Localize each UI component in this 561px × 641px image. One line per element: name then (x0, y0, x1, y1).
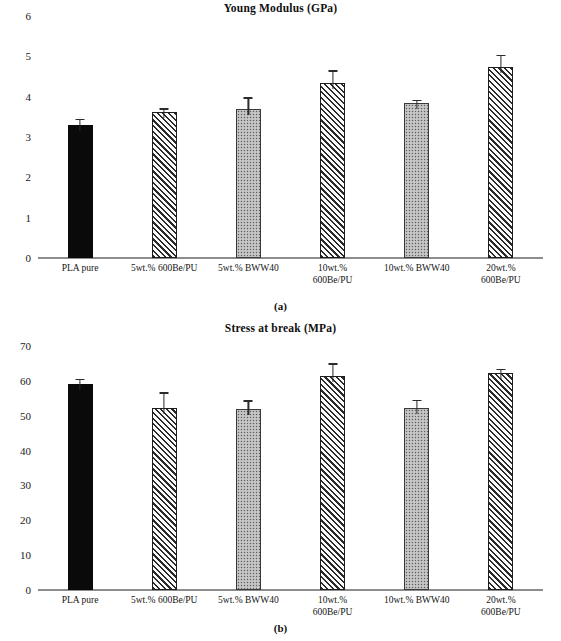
x-axis-category-label: 20wt.%600Be/PU (459, 263, 543, 286)
bar[interactable] (152, 112, 177, 258)
x-axis-category-label: 20wt.%600Be/PU (459, 595, 543, 618)
y-axis-tick-label: 30 (5, 480, 31, 490)
y-axis-tick-label: 2 (5, 172, 31, 182)
bar[interactable] (488, 373, 513, 590)
bar[interactable] (404, 408, 429, 590)
error-bar-line (164, 108, 165, 118)
chart-title-b: Stress at break (MPa) (0, 322, 561, 334)
panel-b: Stress at break (MPa) 010203040506070PLA… (0, 320, 561, 641)
error-bar-cap (412, 400, 421, 401)
bar-group[interactable] (68, 16, 93, 258)
bar-group[interactable] (68, 346, 93, 590)
x-axis-line (38, 589, 543, 591)
x-axis-category-label: 10wt.% BWW40 (375, 263, 459, 275)
error-bar-line (248, 400, 249, 415)
error-bar-cap (160, 108, 169, 109)
error-bar-cap (412, 100, 421, 101)
error-bar-cap (76, 119, 85, 120)
bar-group[interactable] (152, 16, 177, 258)
bar-group[interactable] (488, 16, 513, 258)
error-bar-cap (328, 363, 337, 364)
y-axis-tick-label: 50 (5, 411, 31, 421)
error-bar-cap (496, 55, 505, 56)
panel-caption-a: (a) (0, 300, 561, 312)
plot-area-a: 0123456PLA pure5wt.% 600Be/PU5wt.% BWW40… (38, 16, 543, 258)
y-axis-tick-label: 1 (5, 213, 31, 223)
error-bar-cap (244, 97, 253, 98)
error-bar-line (332, 70, 333, 89)
x-axis-category-label: 5wt.% BWW40 (206, 263, 290, 275)
panel-a: Young Modulus (GPa) 0123456PLA pure5wt.%… (0, 0, 561, 320)
error-bar-line (79, 379, 80, 391)
x-axis-category-label: 10wt.%600Be/PU (291, 263, 375, 286)
y-axis-tick-label: 4 (5, 92, 31, 102)
bar[interactable] (68, 125, 93, 258)
bar-group[interactable] (320, 346, 345, 590)
bar[interactable] (68, 384, 93, 590)
bar-group[interactable] (320, 16, 345, 258)
bar-group[interactable] (404, 16, 429, 258)
x-axis-category-label: 10wt.%600Be/PU (291, 595, 375, 618)
bar[interactable] (404, 103, 429, 258)
x-axis-category-label: 10wt.% BWW40 (375, 595, 459, 607)
x-axis-line (38, 257, 543, 259)
error-bar-cap (160, 392, 169, 393)
error-bar-cap (244, 400, 253, 401)
bar[interactable] (152, 408, 177, 590)
chart-title-a: Young Modulus (GPa) (0, 2, 561, 14)
bar[interactable] (320, 83, 345, 258)
error-bar-line (164, 392, 165, 414)
x-axis-category-label: PLA pure (38, 595, 122, 607)
y-axis-tick-label: 20 (5, 515, 31, 525)
y-axis-tick-label: 40 (5, 446, 31, 456)
bar[interactable] (488, 67, 513, 258)
error-bar-line (79, 119, 80, 131)
x-axis-category-label: 5wt.% 600Be/PU (122, 595, 206, 607)
error-bar-line (416, 400, 417, 415)
error-bar-line (332, 363, 333, 382)
error-bar-line (416, 100, 417, 109)
x-axis-category-label: 5wt.% 600Be/PU (122, 263, 206, 275)
y-axis-tick-label: 60 (5, 376, 31, 386)
panel-caption-b: (b) (0, 622, 561, 634)
error-bar-cap (76, 379, 85, 380)
bar-group[interactable] (236, 346, 261, 590)
y-axis-tick-label: 70 (5, 341, 31, 351)
bar[interactable] (236, 409, 261, 590)
bar[interactable] (236, 109, 261, 258)
bar-group[interactable] (404, 346, 429, 590)
y-axis-tick-label: 5 (5, 51, 31, 61)
error-bar-cap (328, 70, 337, 71)
x-axis-category-label: PLA pure (38, 263, 122, 275)
bar-group[interactable] (236, 16, 261, 258)
y-axis-tick-label: 0 (5, 585, 31, 595)
y-axis-tick-label: 10 (5, 550, 31, 560)
error-bar-line (500, 55, 501, 74)
y-axis-tick-label: 6 (5, 11, 31, 21)
y-axis-tick-label: 0 (5, 253, 31, 263)
bar-group[interactable] (152, 346, 177, 590)
error-bar-line (500, 369, 501, 380)
error-bar-cap (496, 369, 505, 370)
error-bar-line (248, 97, 249, 114)
y-axis-tick-label: 3 (5, 132, 31, 142)
x-axis-category-label: 5wt.% BWW40 (206, 595, 290, 607)
bar-group[interactable] (488, 346, 513, 590)
plot-area-b: 010203040506070PLA pure5wt.% 600Be/PU5wt… (38, 346, 543, 590)
bar[interactable] (320, 376, 345, 590)
